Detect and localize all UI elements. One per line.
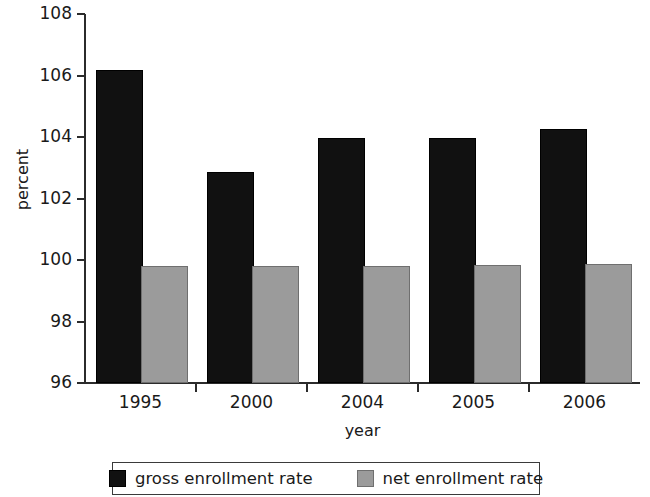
x-axis-tick — [195, 383, 197, 392]
x-axis-tick — [306, 383, 308, 392]
x-axis-tick-labels: 19952000200420052006 — [85, 392, 640, 416]
y-axis-tick-label: 100 — [28, 251, 72, 268]
bar-2000-net — [252, 266, 299, 383]
y-axis-tick-label: 108 — [28, 5, 72, 22]
bar-2005-net — [474, 265, 521, 383]
x-axis-tick — [528, 383, 530, 392]
x-axis-tick — [417, 383, 419, 392]
y-axis-tick-label: 104 — [28, 128, 72, 145]
chart-legend: gross enrollment ratenet enrollment rate — [112, 462, 540, 495]
y-axis-tick — [77, 75, 85, 77]
legend-label: gross enrollment rate — [135, 470, 313, 488]
y-axis-tick-label: 98 — [28, 313, 72, 330]
y-axis-tick — [77, 321, 85, 323]
plot-area — [85, 14, 640, 383]
y-axis-tick-label: 102 — [28, 190, 72, 207]
y-axis-tick — [77, 13, 85, 15]
y-axis-tick — [77, 198, 85, 200]
legend-item-net: net enrollment rate — [357, 470, 544, 488]
bar-2004-gross — [318, 138, 365, 383]
x-axis-tick-label: 2000 — [212, 392, 292, 412]
legend-label: net enrollment rate — [383, 470, 544, 488]
legend-item-gross: gross enrollment rate — [109, 470, 313, 488]
bar-1995-gross — [96, 70, 143, 383]
y-axis-tick — [77, 136, 85, 138]
y-axis-tick — [77, 382, 85, 384]
bar-2005-gross — [429, 138, 476, 383]
x-axis-tick-label: 2006 — [545, 392, 625, 412]
bar-1995-net — [141, 266, 188, 383]
legend-swatch-icon — [357, 470, 374, 487]
bar-chart-figure: percent 9698100102104106108 199520002004… — [0, 0, 650, 497]
x-axis-tick-label: 1995 — [101, 392, 181, 412]
bar-2006-gross — [540, 129, 587, 383]
y-axis-tick-label: 96 — [28, 374, 72, 391]
bar-2004-net — [363, 266, 410, 383]
x-axis-tick-label: 2005 — [434, 392, 514, 412]
x-axis-tick-label: 2004 — [323, 392, 403, 412]
y-axis-tick-labels: 9698100102104106108 — [24, 0, 72, 400]
bar-2000-gross — [207, 172, 254, 383]
y-axis-tick-label: 106 — [28, 67, 72, 84]
legend-swatch-icon — [109, 470, 126, 487]
bar-2006-net — [585, 264, 632, 383]
y-axis-tick — [77, 259, 85, 261]
x-axis-title: year — [85, 421, 640, 440]
